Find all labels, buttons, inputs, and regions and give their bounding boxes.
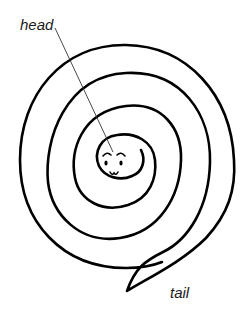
right-eyebrow-icon [117, 153, 125, 156]
spiral-diagram [0, 0, 248, 312]
head-label: head [20, 17, 53, 32]
left-eyebrow-icon [103, 153, 111, 156]
face [103, 153, 125, 174]
nose-icon [110, 172, 118, 174]
left-eye-icon [104, 160, 107, 165]
spiral-body [20, 45, 234, 291]
right-eye-icon [119, 160, 122, 165]
tail-label: tail [170, 285, 189, 300]
